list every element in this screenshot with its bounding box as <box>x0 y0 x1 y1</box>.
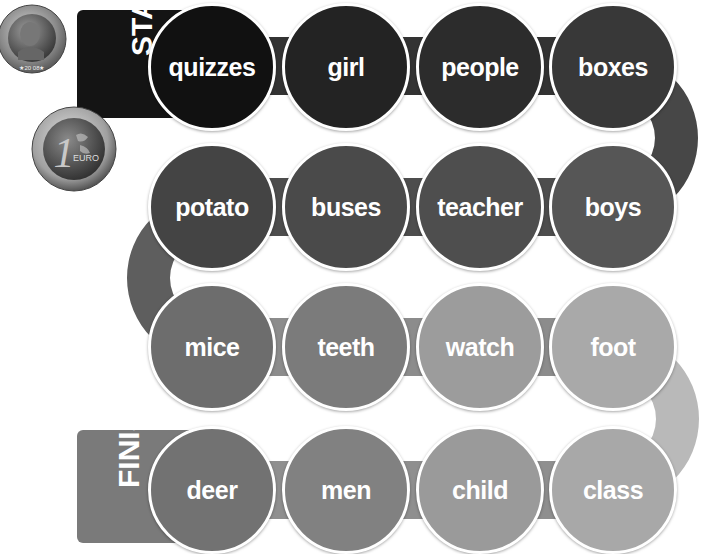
space-word: boys <box>585 193 641 222</box>
svg-text:★20 08★: ★20 08★ <box>19 65 44 71</box>
board-space-men[interactable]: men <box>282 426 410 554</box>
one-euro-coin-icon[interactable]: 1 EURO <box>30 105 120 195</box>
board-space-child[interactable]: child <box>416 426 544 554</box>
svg-text:EURO: EURO <box>73 153 99 163</box>
board-space-teeth[interactable]: teeth <box>282 283 410 411</box>
svg-text:1: 1 <box>54 130 75 176</box>
space-word: child <box>452 476 508 505</box>
board-space-people[interactable]: people <box>416 3 544 131</box>
space-word: quizzes <box>169 53 256 82</box>
space-word: foot <box>590 333 635 362</box>
board-space-watch[interactable]: watch <box>416 283 544 411</box>
board-space-deer[interactable]: deer <box>148 426 276 554</box>
space-word: boxes <box>578 53 648 82</box>
space-word: mice <box>185 333 240 362</box>
board-space-quizzes[interactable]: quizzes <box>148 3 276 131</box>
space-word: teeth <box>317 333 374 362</box>
space-word: deer <box>187 476 238 505</box>
space-word: teacher <box>437 193 522 222</box>
space-word: buses <box>311 193 381 222</box>
board-space-mice[interactable]: mice <box>148 283 276 411</box>
board-space-teacher[interactable]: teacher <box>416 143 544 271</box>
space-word: men <box>321 476 371 505</box>
space-word: class <box>583 476 643 505</box>
space-word: girl <box>328 53 365 82</box>
board-space-buses[interactable]: buses <box>282 143 410 271</box>
space-word: watch <box>446 333 514 362</box>
board-space-boys[interactable]: boys <box>549 143 677 271</box>
board-space-class[interactable]: class <box>549 426 677 554</box>
space-word: people <box>441 53 519 82</box>
board-space-foot[interactable]: foot <box>549 283 677 411</box>
board-space-potato[interactable]: potato <box>148 143 276 271</box>
space-word: potato <box>175 193 248 222</box>
board-space-boxes[interactable]: boxes <box>549 3 677 131</box>
board-space-girl[interactable]: girl <box>282 3 410 131</box>
